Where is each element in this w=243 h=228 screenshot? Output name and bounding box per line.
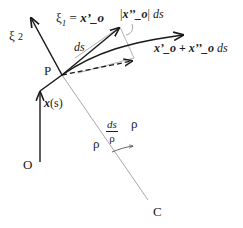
xi2-symbol: ξ [9,28,15,43]
rho-left-label: ρ [93,137,100,150]
rotation-arrow [112,146,133,152]
xi2-label: ξ 2 [9,29,23,42]
sum-term-b: x’’_o [189,41,214,55]
norm-ds: ds [150,7,164,21]
center-c-label: C [153,205,162,218]
sum-vector-label: x’_o + x’’_o ds [154,42,228,54]
position-vector-label: x(s) [44,97,63,109]
origin-label: O [23,158,32,171]
rho-right-label: ρ [131,117,138,130]
xi1-tangent-arrow [62,28,119,75]
angle-numerator: ds [106,119,118,132]
xi1-rhs: x’_o [80,10,104,25]
ds-tangent-label: ds [74,41,85,53]
radius-line [62,75,148,200]
xi2-subscript: 2 [18,31,23,42]
norm-label: |x’’_o| ds [120,8,164,20]
diagram-figure [0,0,243,228]
label-pointer [126,24,133,35]
xi1-equals: = [66,10,80,25]
norm-vector: x’’_o [122,7,147,21]
diagram-canvas: ξ 2 ξ1 = x’_o |x’’_o| ds ds x’_o + x’’_o… [0,0,243,228]
position-vector-arg: (s) [50,96,63,110]
angle-denominator: ρ [109,132,115,144]
sum-term-a: x’_o [154,41,176,55]
point-p-label: P [44,64,51,77]
sum-plus: + [176,41,189,55]
angle-fraction: ds ρ [106,119,118,144]
xi1-label: ξ1 = x’_o [56,11,104,28]
sum-ds: ds [214,41,228,55]
